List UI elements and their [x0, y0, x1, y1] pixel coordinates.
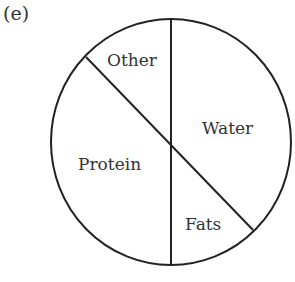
- slice-label-protein: Protein: [78, 154, 141, 174]
- slice-label-water: Water: [202, 118, 254, 138]
- slice-label-other: Other: [107, 50, 158, 70]
- pie-chart: Other Water Fats Protein: [0, 0, 295, 282]
- divider-diagonal: [86, 57, 253, 230]
- slice-label-fats: Fats: [185, 214, 221, 234]
